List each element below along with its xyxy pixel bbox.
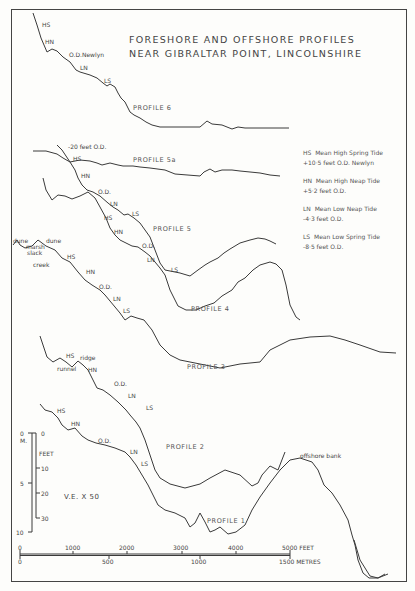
p6-hs: HS — [42, 21, 50, 28]
p5-ls: LS — [171, 266, 178, 273]
h-m-0: 0 — [18, 558, 22, 565]
profile-6-label: PROFILE 6 — [133, 104, 172, 112]
h-ft-5000: 5000 FEET — [282, 544, 314, 551]
legend-item-ln: LN Mean Low Neap Tide -4·3 feet O.D. — [303, 204, 383, 224]
tide-legend: HS Mean High Spring Tide +10·5 feet O.D.… — [303, 148, 383, 260]
p3-od: O.D. — [114, 380, 127, 387]
p2-ln: LN — [130, 448, 138, 455]
v-m-5: 5 — [20, 480, 24, 487]
p5-hs: HS — [104, 214, 112, 221]
h-m-500: 500 — [102, 558, 113, 565]
p4-creek: creek — [33, 261, 50, 268]
profile-4-label: PROFILE 4 — [191, 305, 230, 313]
p2-hs: HS — [57, 407, 65, 414]
h-m-1000: 1000 — [191, 558, 206, 565]
p4-od: O.D. — [99, 283, 112, 290]
p6-hn: HN — [45, 38, 54, 45]
p5a-od: O.D. — [98, 188, 111, 195]
v-feet-unit: FEET — [39, 450, 54, 457]
p6-ls: LS — [104, 77, 111, 84]
profiles-drawing — [0, 0, 415, 591]
figure-title: FORESHORE AND OFFSHORE PROFILES NEAR GIB… — [129, 33, 362, 61]
p4-hs: HS — [67, 253, 75, 260]
p4-dune-right: dune — [46, 237, 61, 244]
profile-2-line — [40, 404, 385, 578]
legend-item-hn: HN Mean High Neap Tide +5·2 feet O.D. — [303, 176, 383, 196]
p4-hn: HN — [86, 268, 95, 275]
title-line-2: NEAR GIBRALTAR POINT, LINCOLNSHIRE — [129, 47, 362, 61]
profile-3-line — [40, 336, 285, 488]
p6-ln: LN — [80, 64, 88, 71]
p5a-minus20: -20 feet O.D. — [68, 143, 106, 150]
p5-ln: LN — [147, 256, 155, 263]
title-line-1: FORESHORE AND OFFSHORE PROFILES — [129, 33, 362, 47]
p3-ls: LS — [146, 404, 153, 411]
profile-5-line — [43, 178, 300, 320]
p3-hs: HS — [66, 352, 74, 359]
profile-3-label: PROFILE 3 — [187, 363, 226, 371]
p2-od: O.D. — [98, 437, 111, 444]
p3-runnel: runnel — [57, 365, 76, 372]
profile-5a-label: PROFILE 5a — [133, 156, 176, 164]
v-ft-10: 10 — [41, 465, 49, 472]
profile-5a-foreshore — [57, 145, 276, 276]
profile-1-label: PROFILE 1 — [207, 517, 246, 525]
p5a-hn: HN — [81, 172, 90, 179]
p5a-ls: LS — [132, 210, 139, 217]
p5-hn: HN — [114, 228, 123, 235]
p4-slack: slack — [27, 249, 42, 256]
v-ft-30: 30 — [41, 515, 49, 522]
p2-ls: LS — [141, 460, 148, 467]
h-ft-2000: 2000 — [119, 544, 134, 551]
p4-ln: LN — [113, 295, 121, 302]
profile-5-label: PROFILE 5 — [153, 225, 192, 233]
offshore-bank-label: offshore bank — [300, 452, 341, 459]
p2-hn: HN — [71, 420, 80, 427]
v-m-10: 10 — [16, 529, 24, 536]
p3-ln: LN — [128, 392, 136, 399]
legend-item-hs: HS Mean High Spring Tide +10·5 feet O.D.… — [303, 148, 383, 168]
p3-hn: HN — [88, 366, 97, 373]
v-ft-0: 0 — [41, 430, 45, 437]
v-m-0: 0 — [20, 430, 24, 437]
p6-od: O.D.Newlyn — [69, 51, 104, 58]
vertical-exaggeration: V.E. X 50 — [64, 493, 99, 501]
p5-od: O.D. — [142, 242, 155, 249]
legend-item-ls: LS Mean Low Spring Tide -8·5 feet O.D. — [303, 232, 383, 252]
profile-2-label: PROFILE 2 — [166, 443, 205, 451]
p5a-ln: LN — [110, 200, 118, 207]
h-ft-0: 0 — [18, 544, 22, 551]
p4-ls: LS — [123, 307, 130, 314]
h-m-1500: 1500 METRES — [279, 558, 321, 565]
h-ft-4000: 4000 — [228, 544, 243, 551]
v-metres-unit: M. — [20, 437, 27, 444]
h-ft-3000: 3000 — [173, 544, 188, 551]
p3-ridge: ridge — [80, 354, 95, 361]
p5a-hs: HS — [73, 155, 81, 162]
h-ft-1000: 1000 — [65, 544, 80, 551]
v-ft-20: 20 — [41, 490, 49, 497]
